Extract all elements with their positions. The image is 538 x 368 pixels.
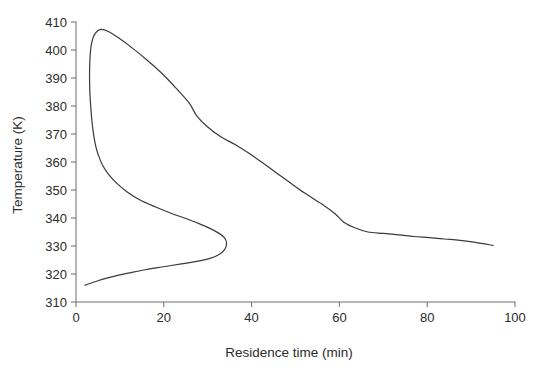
- x-axis-tick-label: 60: [332, 310, 346, 325]
- y-axis-tick-label: 340: [45, 211, 67, 226]
- y-axis-tick-label: 330: [45, 239, 67, 254]
- x-axis-tick-label: 40: [244, 310, 258, 325]
- chart-screenshot: 310320330340350360370380390400410 020406…: [0, 0, 538, 368]
- y-axis-tick-label: 380: [45, 99, 67, 114]
- x-axis-title: Residence time (min): [225, 345, 353, 360]
- x-axis-tick-label: 20: [157, 310, 171, 325]
- y-axis-title: Temperature (K): [10, 116, 25, 214]
- y-axis-tick-label: 360: [45, 155, 67, 170]
- y-axis-tick-label: 320: [45, 267, 67, 282]
- y-axis-tick-label: 410: [45, 15, 67, 30]
- y-axis-tick-label: 350: [45, 183, 67, 198]
- temperature-residence-time-chart: 310320330340350360370380390400410 020406…: [0, 0, 538, 368]
- x-axis-tick-label: 100: [504, 310, 526, 325]
- y-axis-tick-label: 400: [45, 43, 67, 58]
- x-axis-tick-label: 0: [72, 310, 79, 325]
- y-axis-tick-label: 310: [45, 295, 67, 310]
- x-axis-tick-label: 80: [420, 310, 434, 325]
- chart-background: [0, 0, 538, 368]
- y-axis-tick-label: 370: [45, 127, 67, 142]
- y-axis-tick-label: 390: [45, 71, 67, 86]
